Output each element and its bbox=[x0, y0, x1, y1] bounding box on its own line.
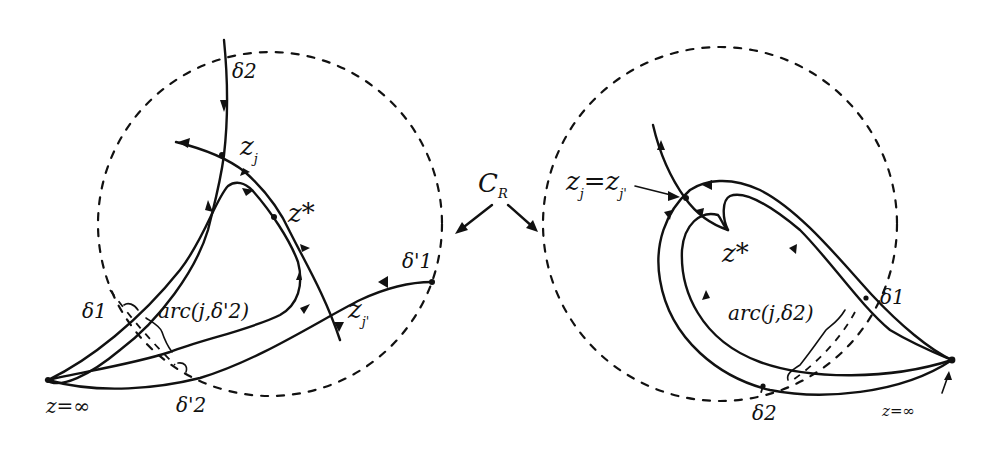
label-zj: zj bbox=[239, 131, 258, 166]
label-delta2: δ2 bbox=[752, 401, 777, 425]
arrow-up-icon bbox=[789, 244, 797, 254]
label-arc: arc(j,δ2) bbox=[728, 301, 814, 325]
left-inner-contour bbox=[48, 183, 300, 380]
arrow-icon bbox=[300, 244, 310, 252]
arrow-up-icon bbox=[205, 200, 213, 212]
arrow-right-icon bbox=[668, 191, 680, 201]
point-z-infinity bbox=[949, 357, 956, 364]
left-tick-delta2prime bbox=[178, 363, 187, 372]
left-tick-delta1 bbox=[124, 304, 138, 310]
point-z-infinity bbox=[45, 377, 51, 383]
left-circle-cr bbox=[98, 52, 442, 396]
label-delta2: δ2 bbox=[232, 59, 257, 83]
right-circle-cr bbox=[543, 47, 897, 401]
left-lower-path bbox=[48, 282, 432, 389]
arrow-right-icon bbox=[300, 304, 310, 314]
right-inner-contour bbox=[682, 195, 952, 376]
left-panel: δ2 zj z* zj' δ'1 δ1 arc(j,δ'2) δ'2 z=∞ bbox=[45, 40, 442, 418]
arrow-left-icon bbox=[178, 138, 190, 148]
diagram-canvas: δ2 zj z* zj' δ'1 δ1 arc(j,δ'2) δ'2 z=∞ C… bbox=[0, 0, 995, 453]
label-delta1: δ1 bbox=[82, 299, 107, 323]
arrow-up-icon bbox=[944, 371, 952, 380]
point-zstar bbox=[271, 214, 277, 220]
point-delta1 bbox=[863, 295, 868, 300]
label-zj-eq-zjprime: zj=zj' bbox=[565, 166, 627, 201]
label-zj-prime: zj' bbox=[347, 294, 369, 329]
label-zstar: z* bbox=[287, 198, 315, 228]
arrow-up-icon bbox=[702, 290, 710, 300]
point-zj-eq bbox=[683, 195, 689, 201]
label-arc: arc(j,δ'2) bbox=[158, 299, 249, 323]
point-zj bbox=[219, 152, 225, 158]
right-panel: zj=zj' z* δ1 arc(j,δ2) δ2 z=∞ bbox=[543, 47, 955, 425]
diagram-svg: δ2 zj z* zj' δ'1 δ1 arc(j,δ'2) δ'2 z=∞ C… bbox=[0, 0, 995, 453]
label-delta1: δ1 bbox=[880, 285, 905, 309]
label-cr: CR bbox=[478, 168, 508, 201]
label-zstar: z* bbox=[721, 238, 749, 268]
label-delta2-prime: δ'2 bbox=[176, 393, 206, 417]
point-delta1-prime bbox=[429, 279, 435, 285]
label-z-infinity: z=∞ bbox=[881, 402, 915, 420]
arrow-left-icon bbox=[378, 276, 388, 288]
label-z-infinity: z=∞ bbox=[45, 394, 90, 418]
cr-label-group: CR bbox=[455, 168, 538, 234]
label-delta1-prime: δ'1 bbox=[402, 249, 432, 273]
